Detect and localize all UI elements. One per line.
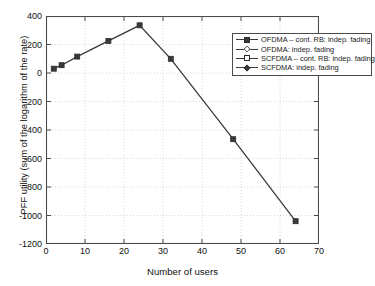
y-tick-label: -600	[8, 154, 42, 164]
y-axis-tick-labels: 400 200 0 -200 -400 -600 -800 -1000 -120…	[4, 16, 42, 244]
legend-marker-diamond-filled-icon	[235, 63, 259, 72]
plot-area: OFDMA – cont. RB: indep. fading OFDMA: i…	[46, 16, 319, 244]
legend-entry-label: SCFDMA: indep. fading	[261, 63, 339, 72]
data-point-marker	[59, 63, 64, 68]
legend-entry-label: SCFDMA – cont. RB: indep. fading	[261, 54, 375, 63]
x-tick-label: 20	[109, 246, 139, 256]
y-tick-label: 200	[8, 40, 42, 50]
legend-entry-label: OFDMA – cont. RB: indep. fading	[261, 35, 370, 44]
data-point-marker	[106, 38, 111, 43]
data-point-marker	[293, 219, 298, 224]
x-tick-label: 30	[148, 246, 178, 256]
x-tick-label: 60	[265, 246, 295, 256]
x-axis-label: Number of users	[45, 266, 320, 277]
y-tick-label: -200	[8, 97, 42, 107]
data-point-marker	[51, 66, 56, 71]
y-tick-label: -400	[8, 125, 42, 135]
legend-entry[interactable]: SCFDMA – cont. RB: indep. fading	[235, 54, 369, 63]
x-tick-label: 0	[31, 246, 61, 256]
y-tick-label: -800	[8, 182, 42, 192]
data-point-marker	[168, 56, 173, 61]
y-tick-label: 400	[8, 11, 42, 21]
legend-entry[interactable]: SCFDMA: indep. fading	[235, 63, 369, 72]
y-tick-label: 0	[8, 68, 42, 78]
x-tick-label: 50	[226, 246, 256, 256]
x-tick-label: 70	[304, 246, 334, 256]
legend-entry[interactable]: OFDMA: indep. fading	[235, 44, 369, 53]
legend-marker-square-filled-icon	[235, 35, 259, 44]
legend-marker-diamond-open-icon	[235, 45, 259, 54]
legend-entry-label: OFDMA: indep. fading	[261, 45, 334, 54]
data-point-marker	[75, 54, 80, 59]
x-tick-label: 40	[187, 246, 217, 256]
chart-legend: OFDMA – cont. RB: indep. fading OFDMA: i…	[232, 33, 372, 76]
legend-marker-square-open-icon	[235, 54, 259, 63]
y-tick-label: -1000	[8, 211, 42, 221]
x-tick-label: 10	[70, 246, 100, 256]
data-point-marker	[231, 137, 236, 142]
data-point-marker	[137, 23, 142, 28]
legend-entry[interactable]: OFDMA – cont. RB: indep. fading	[235, 35, 369, 44]
x-axis-tick-labels: 0 10 20 30 40 50 60 70	[46, 246, 319, 260]
